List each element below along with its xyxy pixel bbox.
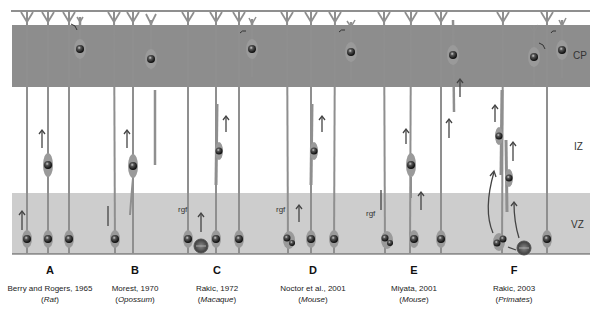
citation-author: Berry and Rogers, 1965 [8,283,93,294]
cp-zone-label: CP [573,50,587,61]
citation-b: Morest, 1970 (Opossum) [112,283,159,305]
citation-d: Noctor et al., 2001 (Mouse) [280,283,345,305]
panel-letter-c: C [213,264,221,276]
citation-author: Morest, 1970 [112,283,159,294]
citation-author: Rakic, 1972 [196,283,238,294]
citation-author: Noctor et al., 2001 [280,283,345,294]
mitotic-cell [194,239,208,253]
iz-zone-label: IZ [574,141,583,152]
citation-author: Rakic, 2003 [493,283,535,294]
citation-c: Rakic, 1972 (Macaque) [196,283,238,305]
citation-e: Miyata, 2001 (Mouse) [391,283,437,305]
panel-letter-d: D [309,264,317,276]
vz-zone-label: VZ [571,219,584,230]
rgf-label-c: rgf [178,205,187,214]
citation-species: Mouse [402,295,426,304]
citation-a: Berry and Rogers, 1965 (Rat) [8,283,93,305]
neuronal-migration-figure: CP IZ VZ rgf rgf rgf A B C D E F Berry a… [0,0,601,313]
rgf-label-e: rgf [366,209,375,218]
panel-letter-a: A [46,264,54,276]
panel-letter-f: F [511,264,518,276]
panel-letter-e: E [410,264,417,276]
citation-species: Primates [498,295,530,304]
panel-letter-b: B [131,264,139,276]
citation-species: Macaque [201,295,234,304]
citation-species: Mouse [301,295,325,304]
citation-species: Rat [44,295,56,304]
citation-author: Miyata, 2001 [391,283,437,294]
mitotic-cell [517,241,531,255]
rgf-label-d: rgf [276,205,285,214]
citation-f: Rakic, 2003 (Primates) [493,283,535,305]
citation-species: Opossum [118,295,152,304]
